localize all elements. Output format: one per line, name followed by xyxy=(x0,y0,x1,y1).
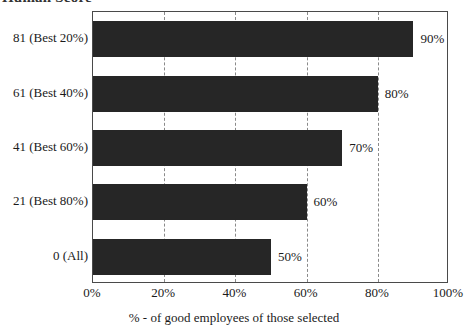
bar-row[interactable]: 90% xyxy=(93,21,449,57)
horizontal-bar-chart: 81 (Best 20%)61 (Best 40%)41 (Best 60%)2… xyxy=(0,0,468,332)
bar-value-label: 50% xyxy=(271,249,302,265)
bar-row[interactable]: 50% xyxy=(93,239,449,275)
bar-value-label: 60% xyxy=(307,194,338,210)
bar-row[interactable]: 80% xyxy=(93,76,449,112)
y-axis-label: 0 (All) xyxy=(0,248,88,264)
x-axis-tick-labels: 0%20%40%60%80%100% xyxy=(92,285,448,302)
bar[interactable] xyxy=(93,76,378,112)
y-axis-label: 61 (Best 40%) xyxy=(0,85,88,101)
bar-row[interactable]: 60% xyxy=(93,184,449,220)
y-axis-label: 21 (Best 80%) xyxy=(0,193,88,209)
x-tick-label: 40% xyxy=(222,285,246,301)
y-axis-category-labels: 81 (Best 20%)61 (Best 40%)41 (Best 60%)2… xyxy=(0,11,88,283)
bar[interactable] xyxy=(93,239,271,275)
bar[interactable] xyxy=(93,21,413,57)
y-axis-label: 81 (Best 20%) xyxy=(0,30,88,46)
bar-row[interactable]: 70% xyxy=(93,130,449,166)
plot-inner: 90%80%70%60%50% xyxy=(93,12,447,282)
bar-value-label: 70% xyxy=(342,140,373,156)
x-tick-label: 80% xyxy=(365,285,389,301)
bar[interactable] xyxy=(93,130,342,166)
x-tick-label: 60% xyxy=(294,285,318,301)
x-tick-label: 20% xyxy=(151,285,175,301)
bar-value-label: 90% xyxy=(413,31,444,47)
x-tick-label: 100% xyxy=(433,285,463,301)
bar-value-label: 80% xyxy=(378,86,409,102)
y-axis-label: 41 (Best 60%) xyxy=(0,139,88,155)
x-tick-label: 0% xyxy=(83,285,100,301)
plot-area: 90%80%70%60%50% xyxy=(92,11,448,283)
x-axis-title: % - of good employees of those selected xyxy=(0,310,468,326)
bar[interactable] xyxy=(93,184,307,220)
